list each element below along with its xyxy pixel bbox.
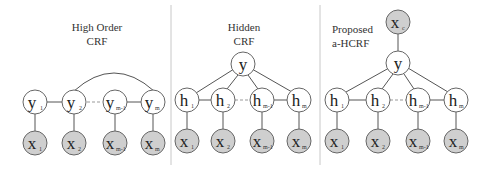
panel-high-order-crf: High Order CRF y 1 y 2 y m-1 y m (23, 21, 165, 155)
hidden-node: h m-1 (250, 88, 274, 112)
node-label: x (391, 13, 400, 32)
hidden-node: h 1 (175, 88, 199, 112)
class-node: y (386, 51, 410, 75)
hidden-node: y m-1 (103, 90, 127, 114)
node-label: h (409, 91, 418, 110)
node-subscript: m (459, 144, 464, 150)
class-edge (382, 74, 393, 89)
node-label: y (106, 93, 115, 112)
node-subscript: m (155, 105, 160, 111)
hidden-node: h m-1 (406, 88, 430, 112)
observed-node: x m-1 (103, 131, 127, 155)
panel-title-line: Proposed (332, 23, 373, 35)
node-subscript: m (302, 144, 307, 150)
node-subscript: m-1 (263, 103, 273, 109)
node-subscript: m-1 (116, 146, 126, 152)
node-subscript: 1 (191, 103, 194, 109)
node-label: x (253, 132, 262, 151)
hidden-node: h 2 (366, 88, 390, 112)
node-label: h (330, 91, 339, 110)
panel-hidden-crf: Hidden CRF y h 1 h 2 h m-1 (175, 21, 311, 153)
node-subscript: 1 (39, 146, 42, 152)
observed-node: x 2 (62, 131, 86, 155)
node-label: x (371, 132, 380, 151)
hidden-node: h m (287, 88, 311, 112)
observed-node: x m-1 (250, 129, 274, 153)
observed-node: x 1 (325, 129, 349, 153)
node-label: x (106, 134, 115, 153)
node-subscript: 1 (341, 103, 344, 109)
observed-node: x m (287, 129, 311, 153)
node-label: y (394, 54, 403, 73)
node-label: h (449, 91, 458, 110)
panel-title-line: Hidden (228, 21, 261, 33)
node-label: h (292, 91, 301, 110)
node-label: y (28, 93, 37, 112)
observed-node: x 2 (366, 129, 390, 153)
node-subscript: m (155, 146, 160, 152)
node-subscript: c (402, 25, 405, 31)
class-edge (404, 74, 414, 89)
node-label: x (67, 134, 76, 153)
node-subscript: 1 (40, 105, 43, 111)
node-subscript: 2 (227, 144, 230, 150)
node-label: x (28, 134, 37, 153)
node-label: h (180, 91, 189, 110)
panel-title-line: CRF (87, 35, 108, 47)
observed-node: x 1 (23, 131, 47, 155)
hidden-node: y m (141, 90, 165, 114)
observed-node: x m-1 (406, 129, 430, 153)
hidden-node: h 2 (211, 88, 235, 112)
node-label: x (409, 132, 418, 151)
hidden-node: h 1 (325, 88, 349, 112)
context-node: x c (386, 10, 410, 34)
node-label: x (292, 132, 301, 151)
observed-node: x 2 (211, 129, 235, 153)
node-subscript: 1 (191, 144, 194, 150)
node-label: x (180, 132, 189, 151)
node-subscript: 2 (79, 105, 82, 111)
node-label: x (449, 132, 458, 151)
panel-proposed-a-hcrf: Proposed a-HCRF x c y h 1 h (325, 10, 468, 153)
class-node: y (231, 52, 255, 76)
node-subscript: m-1 (419, 103, 429, 109)
node-subscript: 2 (227, 103, 230, 109)
node-label: x (145, 134, 154, 153)
node-label: x (216, 132, 225, 151)
high-order-arc (74, 73, 154, 91)
node-subscript: m-1 (419, 144, 429, 150)
hidden-node: h m (444, 88, 468, 112)
node-subscript: 2 (382, 103, 385, 109)
observed-node: x 1 (175, 129, 199, 153)
panel-title-line: High Order (72, 21, 123, 33)
node-subscript: m-1 (263, 144, 273, 150)
node-subscript: m (459, 103, 464, 109)
class-edge (248, 75, 258, 89)
diagram-canvas: High Order CRF y 1 y 2 y m-1 y m (0, 0, 478, 173)
panel-title-line: a-HCRF (332, 37, 369, 49)
observed-node: x m (141, 131, 165, 155)
node-label: y (145, 93, 154, 112)
node-subscript: 1 (341, 144, 344, 150)
node-label: y (239, 55, 248, 74)
class-edge (227, 75, 238, 89)
node-subscript: m-1 (116, 105, 126, 111)
node-label: h (371, 91, 380, 110)
node-label: y (67, 93, 76, 112)
node-subscript: 2 (78, 146, 81, 152)
node-subscript: 2 (382, 144, 385, 150)
node-label: x (330, 132, 339, 151)
node-subscript: m (302, 103, 307, 109)
hidden-node: y 1 (23, 90, 47, 114)
hidden-node: y 2 (62, 90, 86, 114)
observed-node: x m (444, 129, 468, 153)
node-label: h (216, 91, 225, 110)
panel-title-line: CRF (234, 35, 255, 47)
node-label: h (253, 91, 262, 110)
